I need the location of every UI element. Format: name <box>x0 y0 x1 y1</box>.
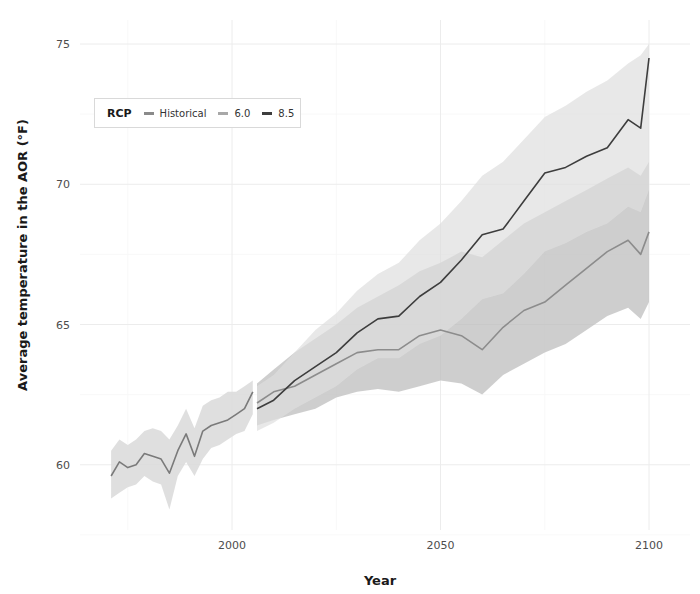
y-tick-label: 60 <box>56 459 70 472</box>
y-axis-ticks: 60657075 <box>56 38 70 472</box>
line-chart: 60657075 200020502100 Year Average tempe… <box>0 0 700 594</box>
x-axis-ticks: 200020502100 <box>218 539 663 552</box>
legend-item-8-5: 8.5 <box>262 108 294 119</box>
x-tick-label: 2050 <box>427 539 455 552</box>
legend-label-6-0: 6.0 <box>234 108 250 119</box>
legend-title: RCP <box>107 107 132 120</box>
legend-label-8-5: 8.5 <box>278 108 294 119</box>
legend-label-historical: Historical <box>160 108 207 119</box>
legend-swatch-6-0 <box>218 112 228 115</box>
x-tick-label: 2100 <box>635 539 663 552</box>
legend-item-historical: Historical <box>144 108 207 119</box>
y-tick-label: 75 <box>56 38 70 51</box>
legend-swatch-historical <box>144 112 154 115</box>
x-axis-title: Year <box>363 573 397 588</box>
x-tick-label: 2000 <box>218 539 246 552</box>
y-tick-label: 70 <box>56 178 70 191</box>
y-tick-label: 65 <box>56 319 70 332</box>
legend-item-6-0: 6.0 <box>218 108 250 119</box>
y-axis-title: Average temperature in the AOR (°F) <box>15 119 30 391</box>
legend-swatch-8-5 <box>262 112 272 115</box>
legend: RCP Historical 6.0 8.5 <box>94 98 301 128</box>
